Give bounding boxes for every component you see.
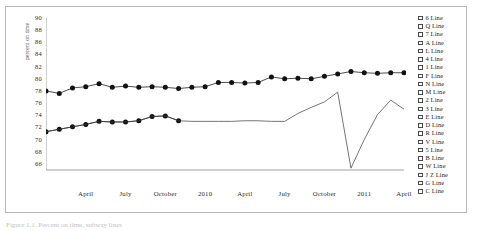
legend-item-label: E Line (426, 114, 444, 120)
legend-item-label: D Line (426, 122, 445, 128)
legend-item[interactable]: W Line (418, 163, 472, 171)
legend-item-label: A Line (426, 40, 444, 46)
legend-item[interactable]: N Line (418, 80, 472, 88)
data-point-marker (269, 74, 274, 79)
data-point-marker (375, 71, 380, 76)
data-point-marker (70, 85, 75, 90)
x-tick-label: July (279, 190, 291, 197)
legend-checkbox-icon[interactable] (418, 82, 423, 87)
legend-item[interactable]: 2 Line (418, 97, 472, 105)
legend-checkbox-icon[interactable] (418, 123, 423, 128)
legend-checkbox-icon[interactable] (418, 24, 423, 29)
x-tick-label: April (237, 190, 252, 197)
data-point-marker (123, 84, 128, 89)
legend-checkbox-icon[interactable] (418, 131, 423, 136)
y-tick-label: 90 (35, 15, 42, 22)
data-point-marker (335, 71, 340, 76)
legend-item[interactable]: E Line (418, 113, 472, 121)
data-point-marker (97, 81, 102, 86)
legend-checkbox-icon[interactable] (418, 148, 423, 153)
legend-checkbox-icon[interactable] (418, 173, 423, 178)
legend-checkbox-icon[interactable] (418, 140, 423, 145)
legend-checkbox-icon[interactable] (418, 74, 423, 79)
data-point-marker (282, 76, 287, 81)
y-tick-label: 82 (35, 63, 42, 70)
y-tick-label: 78 (35, 88, 42, 95)
chart-svg (46, 18, 406, 188)
legend-checkbox-icon[interactable] (418, 90, 423, 95)
legend-checkbox-icon[interactable] (418, 189, 423, 194)
data-point-marker (203, 84, 208, 89)
legend-checkbox-icon[interactable] (418, 115, 423, 120)
data-point-marker (362, 70, 367, 75)
y-tick-label: 68 (35, 149, 42, 156)
data-point-marker (83, 84, 88, 89)
x-tick-label: October (154, 190, 177, 197)
y-tick-label: 76 (35, 100, 42, 107)
data-point-marker (150, 84, 155, 89)
x-tick-label: April (78, 190, 93, 197)
legend: 6 LineQ Line7 LineA LineL Line4 Line1 Li… (418, 14, 472, 196)
data-point-marker (295, 76, 300, 81)
legend-item[interactable]: J Z Line (418, 171, 472, 179)
data-point-marker (348, 69, 353, 74)
data-point-marker (322, 74, 327, 79)
legend-checkbox-icon[interactable] (418, 49, 423, 54)
legend-item[interactable]: B Line (418, 154, 472, 162)
y-tick-label: 74 (35, 112, 42, 119)
legend-checkbox-icon[interactable] (418, 57, 423, 62)
legend-item[interactable]: 5 Line (418, 146, 472, 154)
legend-item-label: J Z Line (426, 172, 449, 178)
data-point-marker (216, 80, 221, 85)
legend-item-label: 2 Line (426, 97, 443, 103)
legend-item[interactable]: 4 Line (418, 55, 472, 63)
legend-checkbox-icon[interactable] (418, 32, 423, 37)
legend-item-label: 7 Line (426, 31, 443, 37)
legend-checkbox-icon[interactable] (418, 107, 423, 112)
legend-item-label: Q Line (426, 23, 445, 29)
legend-checkbox-icon[interactable] (418, 16, 423, 21)
legend-item[interactable]: M Line (418, 88, 472, 96)
data-point-marker (309, 76, 314, 81)
y-tick-label: 80 (35, 76, 42, 83)
legend-item[interactable]: D Line (418, 121, 472, 129)
legend-item[interactable]: V Line (418, 138, 472, 146)
x-tick-label: 2010 (198, 190, 212, 197)
legend-item[interactable]: 7 Line (418, 31, 472, 39)
legend-item[interactable]: Q Line (418, 22, 472, 30)
legend-item[interactable]: F Line (418, 72, 472, 80)
legend-item[interactable]: C Line (418, 187, 472, 195)
legend-item[interactable]: A Line (418, 39, 472, 47)
legend-checkbox-icon[interactable] (418, 65, 423, 70)
x-tick-label: July (119, 190, 131, 197)
y-tick-label: 66 (35, 161, 42, 168)
legend-checkbox-icon[interactable] (418, 98, 423, 103)
legend-item[interactable]: R Line (418, 130, 472, 138)
legend-item-label: C Line (426, 188, 444, 194)
legend-checkbox-icon[interactable] (418, 181, 423, 186)
legend-item[interactable]: G Line (418, 179, 472, 187)
x-tick-label: April (396, 190, 411, 197)
data-point-marker (46, 88, 49, 93)
y-axis-ticks: 90888684828078767472706866 (18, 18, 42, 170)
figure-page: percent on time 908886848280787674727068… (0, 0, 477, 231)
x-tick-label: 2011 (357, 190, 371, 197)
data-point-marker (388, 70, 393, 75)
legend-checkbox-icon[interactable] (418, 164, 423, 169)
legend-item-label: F Line (426, 73, 444, 79)
legend-checkbox-icon[interactable] (418, 41, 423, 46)
series-line (46, 92, 404, 168)
data-point-marker (256, 80, 261, 85)
legend-item-label: L Line (426, 48, 444, 54)
legend-checkbox-icon[interactable] (418, 156, 423, 161)
legend-item[interactable]: 3 Line (418, 105, 472, 113)
legend-item[interactable]: 6 Line (418, 14, 472, 22)
data-point-marker (189, 85, 194, 90)
legend-item[interactable]: L Line (418, 47, 472, 55)
legend-item-label: M Line (426, 89, 446, 95)
data-point-marker (229, 80, 234, 85)
data-point-marker (57, 91, 62, 96)
legend-item-label: 5 Line (426, 147, 443, 153)
legend-item[interactable]: 1 Line (418, 64, 472, 72)
data-point-marker (402, 70, 407, 75)
